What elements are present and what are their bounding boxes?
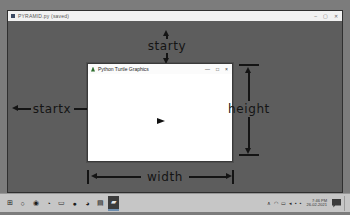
- screenshot-root: PYRAMID.py (saved) – ▢ ✕ starty startx: [0, 0, 350, 215]
- chrome-browser-icon[interactable]: ●: [69, 196, 80, 211]
- turtle-window-icon: [91, 67, 95, 72]
- network-icon[interactable]: ◂: [289, 196, 292, 211]
- width-right-cap: [232, 170, 234, 184]
- show-desktop-button[interactable]: [344, 196, 347, 211]
- width-line-left: [97, 176, 141, 178]
- height-line-upper: [248, 73, 250, 101]
- app-window-title: PYRAMID.py (saved): [18, 13, 69, 19]
- search-icon[interactable]: ○: [17, 196, 28, 211]
- taskbar: ⊞ ○ ◉ ◔ ▭ ● ◕ ▤ ▰ ∧ ◠ ▭ ◂ ▪ ▪ 7:46 PM 26…: [0, 193, 350, 212]
- cortana-icon[interactable]: ◉: [30, 196, 41, 211]
- app-close-button[interactable]: ✕: [334, 11, 338, 21]
- edge-browser-icon[interactable]: ◔: [43, 196, 54, 211]
- width-label: width: [141, 170, 189, 184]
- turtle-graphics-window: Python Turtle Graphics — □ ×: [87, 63, 233, 162]
- turtle-close-button[interactable]: ×: [225, 64, 228, 74]
- app-maximize-button[interactable]: ▢: [323, 11, 328, 21]
- turtle-maximize-button[interactable]: □: [216, 64, 219, 74]
- height-top-cap: [239, 64, 259, 66]
- python-turtle-app-icon[interactable]: ▰: [108, 196, 119, 211]
- firefox-browser-icon[interactable]: ◕: [82, 196, 93, 211]
- language-icon[interactable]: ▪: [300, 196, 302, 211]
- app-window: PYRAMID.py (saved) – ▢ ✕ starty startx: [7, 10, 343, 193]
- battery-icon[interactable]: ▭: [281, 196, 286, 211]
- taskbar-icons: ⊞ ○ ◉ ◔ ▭ ● ◕ ▤ ▰: [0, 196, 119, 211]
- starty-label: starty: [140, 39, 194, 53]
- app-window-icon: [11, 14, 15, 18]
- startx-label: startx: [30, 102, 74, 116]
- height-line-lower: [248, 117, 250, 148]
- action-center-icon[interactable]: [332, 199, 341, 208]
- width-left-cap: [87, 170, 89, 184]
- file-explorer-icon[interactable]: ▤: [95, 196, 106, 211]
- app-window-controls: – ▢ ✕: [314, 11, 342, 21]
- turtle-window-controls: — □ ×: [205, 64, 232, 74]
- turtle-cursor-icon: [157, 118, 165, 124]
- turtle-minimize-button[interactable]: —: [205, 64, 210, 74]
- width-line-right: [189, 176, 226, 178]
- turtle-window-title: Python Turtle Graphics: [98, 66, 149, 72]
- system-tray: ∧ ◠ ▭ ◂ ▪ ▪ 7:46 PM 26-02-2021: [267, 196, 350, 211]
- clock-date: 26-02-2021: [307, 203, 327, 208]
- task-view-icon[interactable]: ▭: [56, 196, 67, 211]
- app-minimize-button[interactable]: –: [314, 11, 317, 21]
- start-button[interactable]: ⊞: [4, 196, 15, 211]
- volume-icon[interactable]: ▪: [295, 196, 297, 211]
- height-label: height: [220, 102, 278, 116]
- taskbar-clock[interactable]: 7:46 PM 26-02-2021: [305, 199, 329, 208]
- height-bottom-cap: [239, 154, 259, 156]
- turtle-canvas: [88, 74, 232, 161]
- onedrive-icon[interactable]: ◠: [274, 196, 278, 211]
- desktop-area: starty startx Python Turtle Graphics — □…: [8, 21, 342, 192]
- startx-arrow-line-right: [74, 108, 88, 110]
- hidden-icons-chevron[interactable]: ∧: [267, 196, 271, 211]
